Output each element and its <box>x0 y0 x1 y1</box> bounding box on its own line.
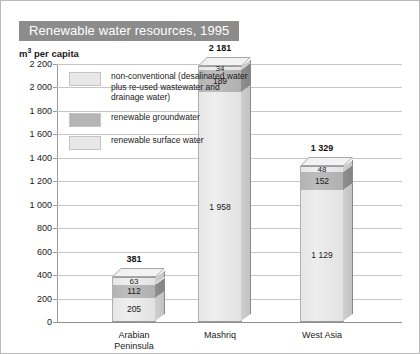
x-axis-category-label-line: Peninsula <box>112 341 156 352</box>
x-axis-category-label-line: Arabian <box>112 330 156 341</box>
legend-swatch-renewable-groundwater <box>69 113 101 127</box>
legend-item-renewable-groundwater[interactable]: renewable groundwater <box>69 112 254 126</box>
y-axis-tick-mark <box>53 111 57 112</box>
x-axis-line <box>57 322 402 323</box>
bar-segment-value: 1 958 <box>209 202 230 212</box>
y-axis-tick-mark <box>53 228 57 229</box>
bar-top-face <box>300 157 353 166</box>
y-axis-tick-mark <box>53 275 57 276</box>
y-axis-tick-label: 1 400 <box>29 153 52 163</box>
chart-title: Renewable water resources, 1995 <box>19 21 239 41</box>
x-axis-category-label-line: West Asia <box>300 330 344 341</box>
bar-segment-renewable-groundwater[interactable]: 112 <box>112 285 156 298</box>
y-axis-tick-mark <box>53 299 57 300</box>
y-axis-tick-mark <box>53 252 57 253</box>
y-axis-tick-label: 2 000 <box>29 82 52 92</box>
y-axis-tick-label: 0 <box>47 317 52 327</box>
bar-segment-value: 63 <box>130 277 139 286</box>
y-axis-tick-label: 1 000 <box>29 200 52 210</box>
bar-total-label: 381 <box>112 254 156 264</box>
bar-segment-value: 205 <box>127 304 141 314</box>
bar-segment-value: 112 <box>127 286 141 296</box>
bar-segment-value: 48 <box>318 165 327 174</box>
y-axis-tick-label: 1 200 <box>29 176 52 186</box>
legend-swatch-non-conventional <box>69 72 101 86</box>
bar-total-label: 1 329 <box>300 143 344 153</box>
bar-segment-renewable-surface-water[interactable]: 205 <box>112 298 156 322</box>
y-axis-tick-label: 200 <box>37 294 52 304</box>
unit-suffix: per capita <box>31 48 79 59</box>
y-axis-tick-label: 1 600 <box>29 129 52 139</box>
legend-item-non-conventional[interactable]: non-conventional (desalinated water plus… <box>69 71 254 103</box>
legend-item-renewable-surface-water[interactable]: renewable surface water <box>69 135 254 149</box>
y-axis-tick-mark <box>53 134 57 135</box>
bar-segment-renewable-groundwater[interactable]: 152 <box>300 172 344 190</box>
y-axis-tick-label: 400 <box>37 270 52 280</box>
y-axis-unit-label: m3 per capita <box>19 47 79 59</box>
legend-swatch-renewable-surface-water <box>69 136 101 150</box>
x-axis-category-label: West Asia <box>300 330 344 341</box>
bar-segment-value: 1 129 <box>311 250 332 260</box>
bar-segment-non-conventional[interactable]: 48 <box>300 166 344 172</box>
y-axis-tick-mark <box>53 181 57 182</box>
bar-segment-renewable-surface-water[interactable]: 1 129 <box>300 190 344 322</box>
y-axis-tick-label: 1 800 <box>29 106 52 116</box>
chart-legend: non-conventional (desalinated water plus… <box>69 71 254 156</box>
bar-top-face <box>198 57 251 66</box>
y-axis-tick-label: 800 <box>37 223 52 233</box>
y-axis-tick-mark <box>53 205 57 206</box>
bar-segment-non-conventional[interactable]: 34 <box>198 66 242 70</box>
y-axis-tick-mark <box>53 64 57 65</box>
x-axis-category-label: ArabianPeninsula <box>112 330 156 352</box>
x-axis-category-label-line: Mashriq <box>198 330 242 341</box>
legend-label: renewable surface water <box>111 135 254 146</box>
bar-total-label: 2 181 <box>198 43 242 53</box>
stacked-bar[interactable]: 1 12915248 <box>300 166 344 322</box>
y-axis-tick-mark <box>53 158 57 159</box>
chart-figure: Renewable water resources, 1995 m3 per c… <box>0 0 420 354</box>
stacked-bar[interactable]: 20511263 <box>112 277 156 322</box>
y-axis-tick-label: 600 <box>37 247 52 257</box>
legend-label: renewable groundwater <box>111 112 254 123</box>
bar-segment-non-conventional[interactable]: 63 <box>112 277 156 284</box>
y-axis-tick-mark <box>53 87 57 88</box>
y-axis-line <box>57 64 58 322</box>
bar-segment-side-face <box>343 182 353 321</box>
y-axis-tick-label: 2 200 <box>29 59 52 69</box>
bar-segment-value: 152 <box>315 176 329 186</box>
legend-label: non-conventional (desalinated water plus… <box>111 71 254 103</box>
y-axis-tick-mark <box>53 322 57 323</box>
x-axis-category-label: Mashriq <box>198 330 242 341</box>
